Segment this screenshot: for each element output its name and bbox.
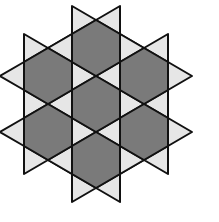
triangle-tile bbox=[0, 118, 24, 146]
hexagon-triangle-tiling bbox=[0, 0, 219, 222]
triangle-tile bbox=[0, 62, 24, 90]
triangle-tile bbox=[168, 118, 192, 146]
triangle-tile bbox=[168, 62, 192, 90]
